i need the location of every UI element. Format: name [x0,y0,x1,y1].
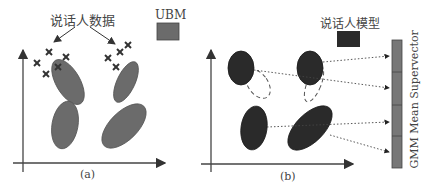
cross-marker [63,54,69,60]
panel-b-caption: (b) [280,170,296,183]
cross-marker [46,49,52,55]
panel-a-caption: (a) [80,168,95,181]
speaker-model-gaussians [228,51,340,158]
cross-marker [125,42,131,48]
gmm-supervector-bar [392,40,402,168]
supervector-label: GMM Mean Supervector [408,39,421,169]
speaker-ellipse [280,98,339,157]
cross-marker [34,60,40,66]
speaker-model-legend-swatch [337,31,360,47]
cross-marker [43,71,49,77]
speaker-ellipse [238,104,270,151]
ubm-ellipse [94,96,153,155]
cross-marker [117,49,123,55]
speaker-data-arrows [54,27,115,44]
cross-marker [105,55,111,61]
ubm-legend-label: UBM [155,8,186,22]
speaker-data-label: 说话人数据 [50,10,115,29]
ubm-ellipse [48,99,82,151]
speaker-model-label: 说话人模型 [320,14,380,31]
ubm-legend-swatch [157,23,179,40]
cross-marker [113,64,119,70]
speaker-ellipse [228,51,254,85]
speaker-ellipse [297,51,323,85]
speaker-data-points [34,42,131,77]
